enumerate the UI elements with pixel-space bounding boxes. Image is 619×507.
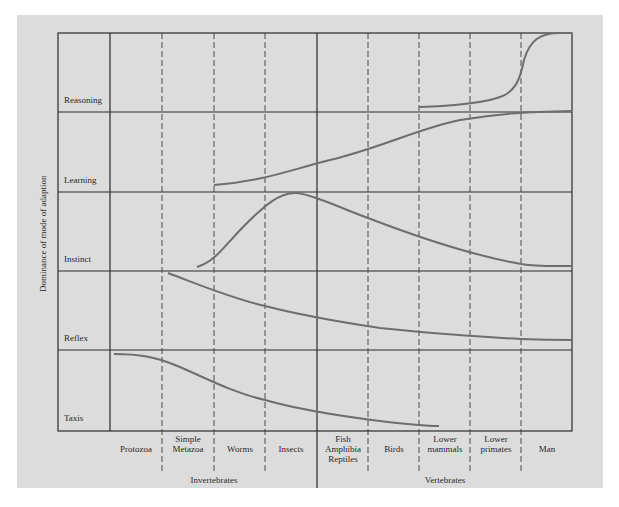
taxis-curve [114,354,439,426]
group-label-vertebrates: Vertebrates [368,475,522,485]
col-label-worms-text: Worms [227,444,253,454]
col-label-line: primates [470,444,522,454]
col-label-line: Fish [317,434,369,444]
row-dividers [58,112,572,350]
reasoning-curve [419,33,572,107]
col-label-worms: Worms [214,444,266,454]
col-label-man-text: Man [539,444,556,454]
row-label-instinct: Instinct [64,254,91,264]
instinct-curve [197,193,572,267]
chart-svg [0,0,619,507]
reflex-curve [168,273,572,340]
col-label-line: Simple [162,434,214,444]
col-label-fish-amphibia-reptiles: Fish Amphibia Reptiles [317,434,369,464]
row-label-learning: Learning [64,175,96,185]
group-label-invertebrates: Invertebrates [162,475,266,485]
col-label-lower-primates: Lower primates [470,434,522,454]
col-label-line: mammals [419,444,471,454]
y-axis-label: Dominance of mode of adaption [38,176,48,292]
col-label-lower-mammals: Lower mammals [419,434,471,454]
col-label-insects: Insects [265,444,317,454]
col-label-line: Lower [419,434,471,444]
col-label-man: Man [521,444,573,454]
col-label-birds: Birds [368,444,420,454]
col-label-protozoa-text: Protozoa [120,444,152,454]
row-label-taxis: Taxis [64,413,83,423]
col-label-line: Amphibia [317,444,369,454]
col-label-insects-text: Insects [279,444,304,454]
col-label-birds-text: Birds [384,444,404,454]
col-label-line: Reptiles [317,454,369,464]
row-label-reflex: Reflex [64,333,88,343]
col-label-simple-metazoa: Simple Metazoa [162,434,214,454]
solid-column-dividers [110,33,317,488]
col-label-line: Lower [470,434,522,444]
row-label-reasoning: Reasoning [64,95,102,105]
col-label-protozoa: Protozoa [110,444,162,454]
col-label-line: Metazoa [162,444,214,454]
learning-curve [214,111,572,185]
chart-frame [58,33,572,431]
curves [114,33,572,426]
